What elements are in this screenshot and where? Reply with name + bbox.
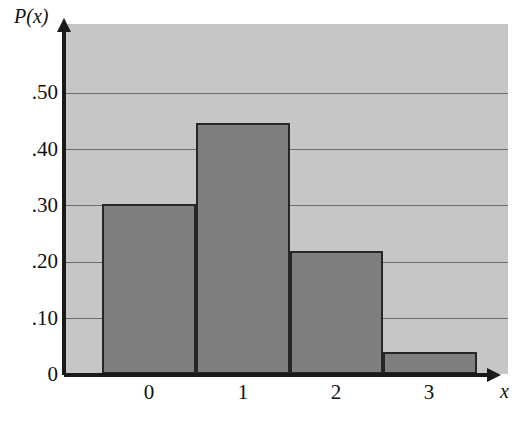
x-tick-label-3: 3 bbox=[409, 382, 449, 403]
y-tick-label-0.50: .50 bbox=[2, 82, 58, 103]
y-tick-label-0: 0 bbox=[2, 364, 58, 385]
x-axis-line bbox=[64, 373, 491, 377]
bar-x-1 bbox=[196, 123, 290, 374]
y-axis-line bbox=[62, 30, 66, 375]
x-tick-label-2: 2 bbox=[316, 382, 356, 403]
bar-x-0 bbox=[102, 204, 196, 374]
y-axis-tick-labels: .50 .40 .30 .20 .10 0 bbox=[0, 0, 58, 422]
y-tick-label-0.30: .30 bbox=[2, 195, 58, 216]
gridline-0.50 bbox=[66, 93, 508, 94]
y-tick-label-0.20: .20 bbox=[2, 251, 58, 272]
plot-area bbox=[66, 24, 508, 374]
probability-histogram-figure: P(x) .50 .40 .30 .20 .10 0 0 1 2 3 x bbox=[0, 0, 524, 422]
x-tick-label-1: 1 bbox=[223, 382, 263, 403]
x-tick-label-0: 0 bbox=[129, 382, 169, 403]
bar-x-2 bbox=[290, 251, 383, 374]
x-axis-arrow-icon bbox=[487, 368, 501, 382]
y-axis-arrow-icon bbox=[57, 18, 71, 32]
x-axis-title: x bbox=[500, 381, 509, 401]
y-tick-label-0.10: .10 bbox=[2, 308, 58, 329]
bar-x-3 bbox=[383, 352, 477, 374]
y-tick-label-0.40: .40 bbox=[2, 139, 58, 160]
